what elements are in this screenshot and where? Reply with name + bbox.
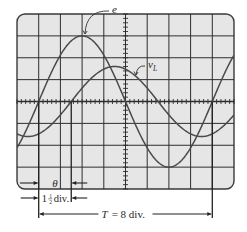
shift-label-unit: div.: [54, 193, 69, 204]
label-subscript: L: [152, 64, 157, 73]
shift-label-int: 1: [42, 193, 47, 204]
shift-label-frac-num: 1: [49, 193, 52, 199]
trace-label-e: e: [112, 3, 117, 15]
shift-label-frac-den: 2: [49, 199, 52, 205]
period-label: T= 8 div.: [102, 208, 146, 220]
theta-label: θ: [52, 177, 58, 189]
period-value: = 8 div.: [112, 208, 146, 220]
shift-label: 112div.: [42, 193, 69, 206]
oscilloscope-diagram: evL θ112div.T= 8 div.: [0, 0, 247, 232]
arrowhead: [72, 196, 76, 200]
arrowhead: [207, 212, 211, 216]
oscilloscope-figure: evL θ112div.T= 8 div.: [0, 0, 247, 232]
arrowhead: [40, 212, 44, 216]
arrowhead: [34, 196, 38, 200]
period-symbol: T: [102, 208, 109, 220]
